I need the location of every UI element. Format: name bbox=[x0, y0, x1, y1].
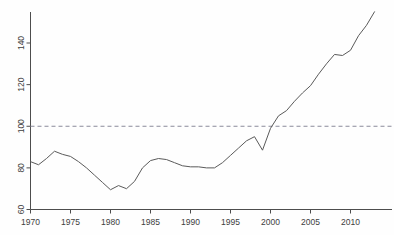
y-tick-label: 100 bbox=[16, 119, 26, 133]
x-axis-tick-labels: 197019751980198519901995200020052010 bbox=[21, 217, 360, 227]
x-tick-label: 2010 bbox=[341, 217, 360, 227]
x-axis-ticks bbox=[31, 210, 351, 214]
x-tick-label: 1970 bbox=[21, 217, 40, 227]
y-tick-label: 80 bbox=[16, 163, 26, 173]
x-tick-label: 2005 bbox=[301, 217, 320, 227]
chart-figure: 6080100120140 19701975198019851990199520… bbox=[0, 0, 394, 235]
y-axis-tick-labels: 6080100120140 bbox=[16, 36, 26, 215]
y-tick-label: 140 bbox=[16, 36, 26, 50]
line-chart-plot: 6080100120140 19701975198019851990199520… bbox=[0, 0, 394, 235]
x-tick-label: 1980 bbox=[101, 217, 120, 227]
index-series-line bbox=[31, 12, 375, 190]
x-tick-label: 1985 bbox=[141, 217, 160, 227]
y-tick-label: 120 bbox=[16, 77, 26, 91]
x-tick-label: 1995 bbox=[221, 217, 240, 227]
x-tick-label: 1990 bbox=[181, 217, 200, 227]
x-tick-label: 2000 bbox=[261, 217, 280, 227]
y-axis-ticks bbox=[27, 43, 31, 210]
y-tick-label: 60 bbox=[16, 205, 26, 215]
x-tick-label: 1975 bbox=[61, 217, 80, 227]
